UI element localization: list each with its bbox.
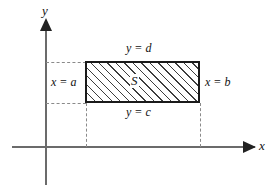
x-axis-label: x bbox=[259, 139, 265, 152]
y-axis-label: y bbox=[42, 4, 48, 17]
boundary-label-right: x = b bbox=[205, 76, 230, 88]
boundary-label-top: y = d bbox=[126, 42, 151, 54]
x-axis-line bbox=[12, 146, 255, 148]
guide-line-y-d bbox=[46, 62, 86, 63]
guide-line-y-c bbox=[46, 103, 86, 104]
boundary-label-left: x = a bbox=[51, 76, 76, 88]
boundary-label-bottom: y = c bbox=[126, 106, 151, 118]
region-rectangle bbox=[85, 61, 200, 103]
math-diagram-canvas: y x S y = d y = c x = a x = b bbox=[0, 0, 274, 189]
y-axis-line bbox=[45, 28, 47, 185]
guide-line-x-b bbox=[200, 103, 201, 147]
guide-line-x-a bbox=[86, 103, 87, 147]
x-axis-arrow-icon bbox=[243, 141, 256, 153]
y-axis-arrow-icon bbox=[40, 18, 52, 31]
region-label-S: S bbox=[130, 74, 139, 88]
